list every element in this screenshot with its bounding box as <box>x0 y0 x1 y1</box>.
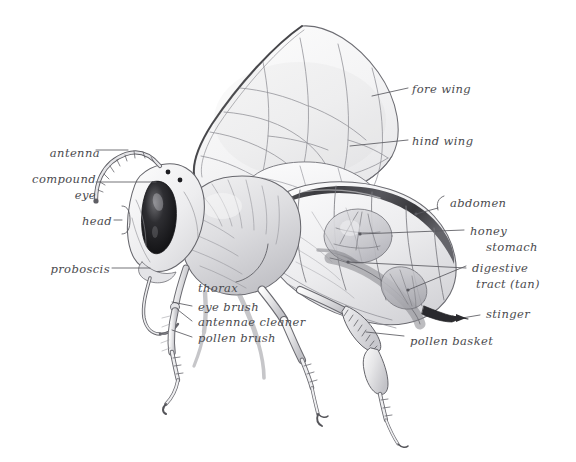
label-thorax: thorax <box>198 281 238 297</box>
bee-anatomy-figure: antenna compound eye head proboscis thor… <box>0 0 576 462</box>
label-head: head <box>0 214 112 230</box>
label-digestive-tract-line2: tract (tan) <box>472 277 540 293</box>
label-antenna: antenna <box>0 146 100 162</box>
label-fore-wing: fore wing <box>412 82 471 98</box>
label-honey-stomach-line1: honey <box>470 224 507 238</box>
ocellus-dot <box>178 178 183 183</box>
label-compound-eye: compound eye <box>0 172 96 203</box>
ocellus-dot <box>166 170 171 175</box>
label-digestive-tract: digestive tract (tan) <box>472 261 540 292</box>
label-hind-wing: hind wing <box>412 134 473 150</box>
label-eye-brush: eye brush <box>198 300 259 316</box>
label-compound-eye-line2: eye <box>0 188 96 204</box>
label-stinger: stinger <box>486 307 530 323</box>
stinger-arrowhead <box>456 314 466 322</box>
label-honey-stomach-line2: stomach <box>470 240 538 256</box>
label-pollen-basket: pollen basket <box>410 334 493 350</box>
label-digestive-tract-line1: digestive <box>472 261 528 275</box>
front-leg-shape <box>161 268 186 414</box>
label-pollen-brush: pollen brush <box>198 331 276 347</box>
label-compound-eye-line1: compound <box>32 172 96 186</box>
label-antennae-cleaner: antennae cleaner <box>198 315 306 331</box>
label-honey-stomach: honey stomach <box>470 224 538 255</box>
label-abdomen: abdomen <box>450 196 506 212</box>
middle-leg-shape <box>262 290 328 426</box>
label-proboscis: proboscis <box>0 262 110 278</box>
